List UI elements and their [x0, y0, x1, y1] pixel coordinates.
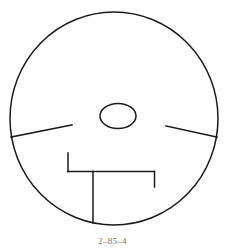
center-ellipse	[100, 104, 136, 129]
left-radial-line	[11, 125, 72, 137]
right-radial-line	[166, 126, 217, 137]
outer-circle	[10, 12, 218, 225]
figure-caption: 2‒85‒4	[0, 236, 225, 246]
line-segments	[11, 125, 217, 223]
diagram-canvas	[0, 0, 225, 252]
